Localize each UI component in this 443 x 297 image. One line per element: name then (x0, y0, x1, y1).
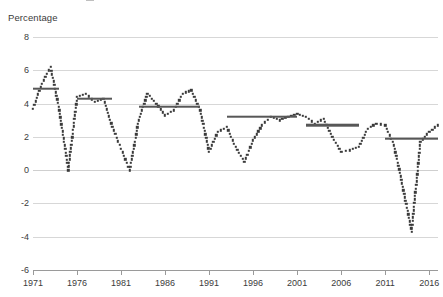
data-point-dot (397, 165, 399, 167)
data-point-dot (57, 102, 59, 104)
data-point-dot (69, 151, 71, 153)
data-point-dot (385, 127, 387, 129)
data-point-dot (68, 162, 70, 164)
y-axis-tick-label: 4 (3, 99, 29, 109)
data-point-dot (399, 175, 401, 177)
data-point-dot (402, 189, 404, 191)
data-point-dot (411, 220, 413, 222)
data-point-dot (322, 117, 324, 119)
x-axis-tick-label: 1996 (243, 278, 263, 288)
data-point-dot (190, 89, 192, 91)
data-point-dot (415, 187, 417, 189)
data-point-dot (406, 210, 408, 212)
plot-area (33, 37, 438, 270)
x-axis-tick (297, 270, 298, 275)
data-point-dot (403, 192, 405, 194)
data-point-dot (110, 122, 112, 124)
data-point-dot (419, 144, 421, 146)
data-point-dot (211, 144, 213, 146)
data-point-dot (139, 116, 141, 118)
x-axis-tick-label: 1986 (155, 278, 175, 288)
data-point-dot (205, 137, 207, 139)
data-point-dot (417, 166, 419, 168)
data-point-dot (416, 177, 418, 179)
data-point-dot (365, 130, 367, 132)
data-point-dot (73, 121, 75, 123)
gridline (33, 104, 438, 105)
data-point-dot (327, 127, 329, 129)
data-point-dot (130, 162, 132, 164)
data-point-dot (42, 79, 44, 81)
data-point-dot (70, 147, 72, 149)
data-point-dot (411, 223, 413, 225)
data-point-dot (49, 66, 51, 68)
x-axis-tick (209, 270, 210, 275)
data-point-dot (257, 130, 259, 132)
y-axis-tick-label: -4 (3, 232, 29, 242)
data-point-dot (137, 119, 139, 121)
data-point-dot (418, 155, 420, 157)
data-point-dot (131, 158, 133, 160)
data-point-dot (434, 126, 436, 128)
data-point-dot (231, 139, 233, 141)
data-point-dot (73, 118, 75, 120)
data-point-dot (249, 146, 251, 148)
data-point-dot (412, 213, 414, 215)
data-point-dot (259, 127, 261, 129)
x-axis-tick (165, 270, 166, 275)
data-point-dot (180, 96, 182, 98)
data-point-dot (264, 121, 266, 123)
data-point-dot (209, 147, 211, 149)
data-point-dot (417, 162, 419, 164)
data-point-dot (388, 134, 390, 136)
data-point-dot (202, 123, 204, 125)
chart-container: Percentage 86420-2-4-6 19711976198119861… (0, 0, 443, 297)
gridline (33, 70, 438, 71)
data-point-dot (203, 130, 205, 132)
data-point-dot (34, 100, 36, 102)
data-point-dot (201, 116, 203, 118)
cropped-marker-top (86, 0, 94, 1)
data-point-dot (132, 151, 134, 153)
data-point-dot (144, 99, 146, 101)
data-point-dot (59, 116, 61, 118)
data-point-dot (52, 80, 54, 82)
data-point-dot (396, 161, 398, 163)
data-point-dot (267, 118, 269, 120)
data-point-dot (417, 159, 419, 161)
data-point-dot (201, 119, 203, 121)
gridline (33, 203, 438, 204)
data-point-dot (64, 151, 66, 153)
data-point-dot (394, 151, 396, 153)
data-point-dot (195, 99, 197, 101)
data-point-dot (414, 191, 416, 193)
data-point-dot (74, 107, 76, 109)
data-point-dot (71, 136, 73, 138)
data-point-dot (59, 113, 61, 115)
data-point-dot (126, 162, 128, 164)
data-point-dot (60, 123, 62, 125)
data-point-dot (118, 144, 120, 146)
data-point-dot (400, 179, 402, 181)
y-axis-tick-label: -2 (3, 198, 29, 208)
data-point-dot (63, 141, 65, 143)
data-point-dot (407, 213, 409, 215)
data-point-dot (199, 109, 201, 111)
data-point-dot (75, 103, 77, 105)
data-point-dot (107, 112, 109, 114)
data-point-dot (252, 139, 254, 141)
data-point-dot (412, 216, 414, 218)
gridline (33, 237, 438, 238)
data-point-dot (406, 206, 408, 208)
data-point-dot (134, 137, 136, 139)
data-point-dot (204, 133, 206, 135)
x-axis-tick-label: 2011 (375, 278, 394, 288)
x-axis-tick-label: 1971 (23, 278, 43, 288)
data-point-dot (135, 133, 137, 135)
data-point-dot (51, 73, 53, 75)
data-point-dot (137, 123, 139, 125)
period-average-bar (306, 124, 359, 127)
data-point-dot (115, 136, 117, 138)
data-point-dot (46, 72, 48, 74)
x-axis-tick-label: 2006 (331, 278, 351, 288)
